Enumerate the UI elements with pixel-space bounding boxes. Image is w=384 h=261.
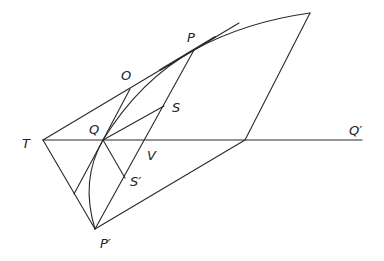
line-q-tp-prime bbox=[74, 140, 103, 194]
label-v: V bbox=[147, 148, 157, 163]
parabola-arc-middle bbox=[103, 50, 194, 140]
label-t: T bbox=[22, 136, 31, 151]
line-base-top-right bbox=[245, 13, 310, 140]
label-q-prime: Q′ bbox=[349, 123, 362, 138]
geometry-diagram: P O S Q T V S′ P′ Q′ bbox=[0, 0, 384, 261]
label-p: P bbox=[187, 30, 195, 45]
line-q-s-prime bbox=[103, 140, 125, 178]
label-p-prime: P′ bbox=[100, 236, 111, 251]
tangent-line-tp-prime bbox=[43, 140, 95, 229]
line-p-prime-base bbox=[95, 140, 245, 229]
parabola-arc-upper bbox=[194, 13, 310, 50]
label-q: Q bbox=[89, 122, 99, 137]
label-s: S bbox=[172, 100, 180, 115]
label-o: O bbox=[121, 68, 131, 83]
label-s-prime: S′ bbox=[130, 174, 141, 189]
